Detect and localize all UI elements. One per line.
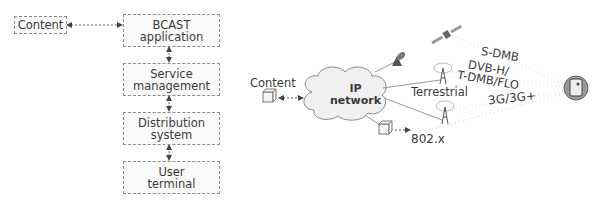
box-label: application xyxy=(140,31,203,43)
box-label: User xyxy=(147,166,195,178)
distribution-system-box: Distributionsystem xyxy=(123,112,220,145)
service-management-box: Servicemanagement xyxy=(123,63,220,96)
satellite-icon xyxy=(430,23,463,46)
cloud-label: network xyxy=(330,95,381,107)
terrestrial-label: Terrestrial xyxy=(411,85,468,99)
cellular-tower-icon xyxy=(436,101,454,124)
box-label: BCAST xyxy=(140,19,203,31)
user-terminal-icon xyxy=(564,76,588,100)
box-label: Service xyxy=(133,68,210,80)
user-terminal-box: Userterminal xyxy=(123,161,220,194)
wifi-label: 802.x xyxy=(411,132,445,146)
link-to-dish xyxy=(375,62,395,72)
content-label: Content xyxy=(18,19,64,31)
ip-network-label: IP network xyxy=(330,83,381,107)
bcast-application-box: BCASTapplication xyxy=(123,14,220,47)
content-server-icon xyxy=(263,89,276,102)
box-label: system xyxy=(138,129,205,141)
box-label: terminal xyxy=(147,178,195,190)
link-to-ap xyxy=(365,115,380,125)
content-source-label: Content xyxy=(250,76,296,90)
satellite-dish-icon xyxy=(392,50,407,66)
box-label: Distribution xyxy=(138,117,205,129)
access-point-icon xyxy=(379,121,392,134)
link-to-tower-2 xyxy=(384,98,442,120)
box-label: management xyxy=(133,80,210,92)
content-box: Content xyxy=(14,16,67,34)
